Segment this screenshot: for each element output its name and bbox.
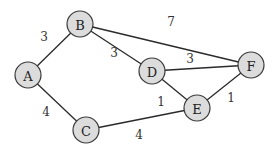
node-f: F bbox=[238, 52, 264, 78]
node-label: A bbox=[22, 69, 33, 84]
edges bbox=[28, 24, 251, 130]
edge-c-e bbox=[86, 108, 197, 130]
node-label: B bbox=[75, 18, 85, 33]
edge-weight-d-f: 3 bbox=[186, 52, 194, 66]
edge-weight-e-f: 1 bbox=[227, 91, 235, 105]
node-label: C bbox=[81, 124, 91, 139]
node-label: E bbox=[192, 102, 202, 117]
edge-weight-b-f: 7 bbox=[167, 15, 175, 29]
node-a: A bbox=[15, 62, 41, 88]
nodes: ABCDEF bbox=[15, 11, 264, 143]
edge-weight-d-e: 1 bbox=[157, 95, 165, 109]
edge-weight-c-e: 4 bbox=[135, 128, 143, 142]
edge-weight-b-d: 3 bbox=[110, 46, 118, 60]
node-label: D bbox=[147, 65, 157, 80]
node-label: F bbox=[246, 59, 255, 74]
node-b: B bbox=[67, 11, 93, 37]
node-e: E bbox=[184, 95, 210, 121]
weighted-graph: 33731144 ABCDEF bbox=[0, 0, 279, 150]
edge-b-f bbox=[80, 24, 251, 65]
node-d: D bbox=[139, 58, 165, 84]
edge-weight-a-b: 3 bbox=[40, 30, 48, 44]
edge-d-f bbox=[152, 65, 251, 71]
edge-weight-a-c: 4 bbox=[42, 105, 50, 119]
node-c: C bbox=[73, 117, 99, 143]
